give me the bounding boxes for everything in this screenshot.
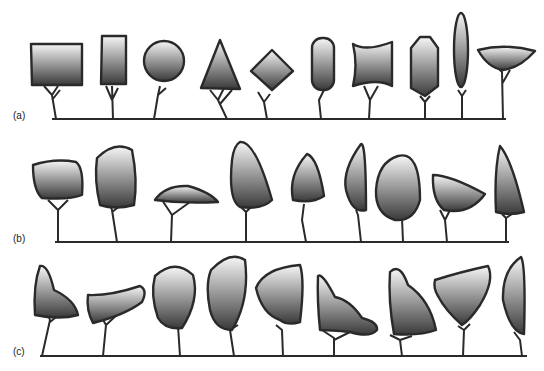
canopy-tall-balloon — [208, 257, 246, 330]
row-c — [35, 257, 527, 356]
row-label-b: (b) — [13, 233, 25, 244]
canopy-tall-rounded-box — [96, 146, 136, 207]
row-a — [31, 13, 535, 119]
row-b — [33, 142, 524, 242]
canopy-triangle — [201, 40, 240, 89]
canopy-circle — [144, 41, 184, 81]
canopy-irregular-blob — [256, 265, 303, 324]
canopy-rectangle-tall — [101, 36, 126, 84]
canopy-balloon — [153, 267, 195, 329]
canopy-shark-fin — [390, 269, 437, 335]
canopy-tall-spire — [496, 146, 525, 214]
canopy-wedge — [433, 175, 485, 211]
canopy-tall-teardrop — [231, 142, 272, 208]
canopy-bowl-fan — [478, 47, 535, 70]
canopy-small-teardrop — [292, 154, 324, 201]
canopy-tall-ellipse — [454, 13, 468, 87]
canopy-diamond — [251, 50, 293, 90]
canopy-rounded-capsule — [312, 38, 334, 90]
canopy-lopsided-peak — [35, 266, 78, 318]
canopy-rectangle-wide — [31, 44, 82, 85]
canopy-rounded-egg — [376, 155, 420, 220]
canopy-concave-hourglass — [353, 42, 392, 86]
canopy-leaning-half-ellipse — [345, 144, 366, 211]
row-label-c: (c) — [13, 346, 25, 357]
canopy-cloud-flat — [88, 286, 145, 323]
row-label-a: (a) — [13, 110, 25, 121]
canopy-rounded-box — [33, 161, 82, 199]
canopy-hexagon — [411, 37, 438, 96]
canopy-stepped-cloud — [318, 275, 377, 334]
tree-silhouette-figure — [0, 0, 544, 371]
canopy-heart-triangle — [434, 266, 490, 325]
canopy-crescent-tall — [503, 257, 525, 334]
canopy-flat-umbrella — [155, 186, 218, 203]
